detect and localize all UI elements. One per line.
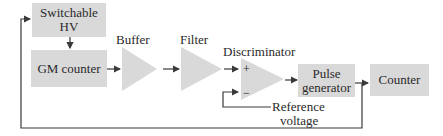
gm-counter-label: GM counter	[37, 62, 100, 76]
pulse-generator-label-line2: generator	[302, 81, 351, 95]
filter-label: Filter	[180, 33, 208, 47]
switchable-hv-label: Switchable HV	[32, 6, 106, 34]
gm-counter-block: GM counter	[31, 50, 107, 87]
reference-voltage-label-line2: voltage	[280, 114, 318, 128]
counter-block: Counter	[370, 64, 429, 96]
pulse-generator-block: Pulse generator	[298, 64, 355, 97]
buffer-amplifier	[122, 47, 157, 91]
counter-label: Counter	[379, 73, 421, 87]
reference-voltage-label-line1: Reference	[272, 100, 325, 114]
pulse-generator-label-line1: Pulse	[312, 67, 340, 81]
buffer-label: Buffer	[116, 33, 150, 47]
filter-amplifier	[181, 47, 222, 91]
minus-input-label: −	[243, 86, 250, 100]
plus-input-label: +	[243, 62, 250, 76]
discriminator-label: Discriminator	[223, 45, 295, 59]
switchable-hv-block: Switchable HV	[32, 3, 106, 37]
